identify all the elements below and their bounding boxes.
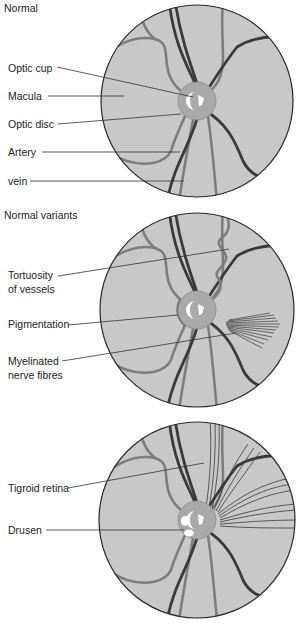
fundus-normal <box>97 1 300 201</box>
fundus-diagrams <box>0 0 300 624</box>
fundus-normal-variants <box>97 210 300 410</box>
fundus-tigroid-drusen <box>97 420 300 620</box>
